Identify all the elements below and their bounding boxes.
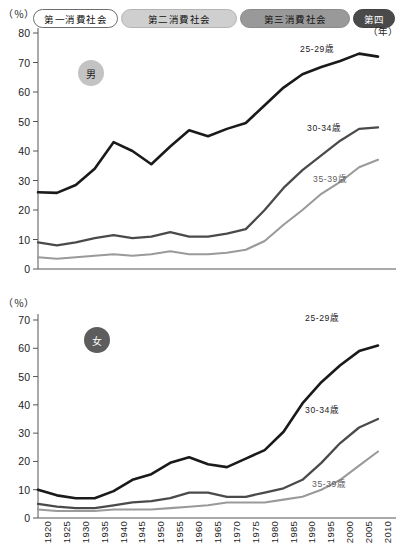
series-line-25-29歳 xyxy=(38,345,378,498)
x-tick-label: 2010 xyxy=(382,521,393,543)
x-axis-labels: 1920192519301935194019451950195519601965… xyxy=(0,519,401,558)
chart-page: 第一消費社会 第二消費社会 第三消費社会 第四 （％） 010203040506… xyxy=(0,0,401,558)
x-tick-label: 1965 xyxy=(212,521,223,543)
era-badge-third[interactable]: 第三消費社会 xyxy=(240,9,350,28)
x-axis-unit: （年） xyxy=(368,24,398,38)
x-tick-label: 1945 xyxy=(136,521,147,543)
x-tick-label: 1970 xyxy=(231,521,242,543)
y-axis-unit-top: （％） xyxy=(3,6,35,21)
badge-female: 女 xyxy=(84,327,110,353)
series-line-30-34歳 xyxy=(38,127,378,245)
series-label-female-30-34: 30-34歳 xyxy=(305,403,340,415)
x-tick-label: 1930 xyxy=(80,521,91,543)
x-tick-label: 1960 xyxy=(193,521,204,543)
series-label-female-35-39: 35-39歳 xyxy=(312,477,347,489)
x-tick-label: 1990 xyxy=(306,521,317,543)
badge-male: 男 xyxy=(78,60,104,86)
series-label-female-25-29: 25-29歳 xyxy=(305,311,340,323)
x-tick-label: 1955 xyxy=(174,521,185,543)
chart-male: （％） 01020304050607080 男 25-29歳 30-34歳 35… xyxy=(0,28,401,283)
badge-female-label: 女 xyxy=(92,333,102,348)
series-label-male-30-34: 30-34歳 xyxy=(307,121,342,133)
x-tick-label: 1920 xyxy=(42,521,53,543)
x-tick-label: 1975 xyxy=(250,521,261,543)
x-tick-label: 2000 xyxy=(344,521,355,543)
x-tick-label: 1925 xyxy=(61,521,72,543)
plot-area-male xyxy=(0,28,401,283)
era-badge-first[interactable]: 第一消費社会 xyxy=(33,9,118,28)
badge-male-label: 男 xyxy=(86,66,96,81)
x-tick-label: 1985 xyxy=(288,521,299,543)
x-tick-label: 2005 xyxy=(363,521,374,543)
era-banner: 第一消費社会 第二消費社会 第三消費社会 第四 xyxy=(33,9,395,28)
era-label-first: 第一消費社会 xyxy=(44,12,107,26)
x-tick-label: 1950 xyxy=(155,521,166,543)
era-badge-second[interactable]: 第二消費社会 xyxy=(121,9,237,28)
x-tick-label: 1995 xyxy=(325,521,336,543)
era-label-third: 第三消費社会 xyxy=(264,12,327,26)
x-tick-label: 1940 xyxy=(118,521,129,543)
era-label-second: 第二消費社会 xyxy=(148,12,211,26)
x-tick-label: 1935 xyxy=(99,521,110,543)
series-label-male-25-29: 25-29歳 xyxy=(300,42,335,54)
series-label-male-35-39: 35-39歳 xyxy=(313,172,348,184)
x-tick-label: 1980 xyxy=(269,521,280,543)
